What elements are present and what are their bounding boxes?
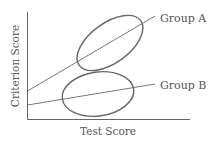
group-a-regression-line <box>28 16 156 91</box>
regression-diagram: Group A Group B Test Score Criterion Sco… <box>0 0 213 143</box>
group-b-ellipse <box>59 67 136 121</box>
group-b-label: Group B <box>160 79 206 92</box>
group-a-label: Group A <box>160 12 207 25</box>
group-b-regression-line <box>28 84 156 105</box>
y-axis-label: Criterion Score <box>9 25 21 107</box>
x-axis-label: Test Score <box>80 125 136 137</box>
